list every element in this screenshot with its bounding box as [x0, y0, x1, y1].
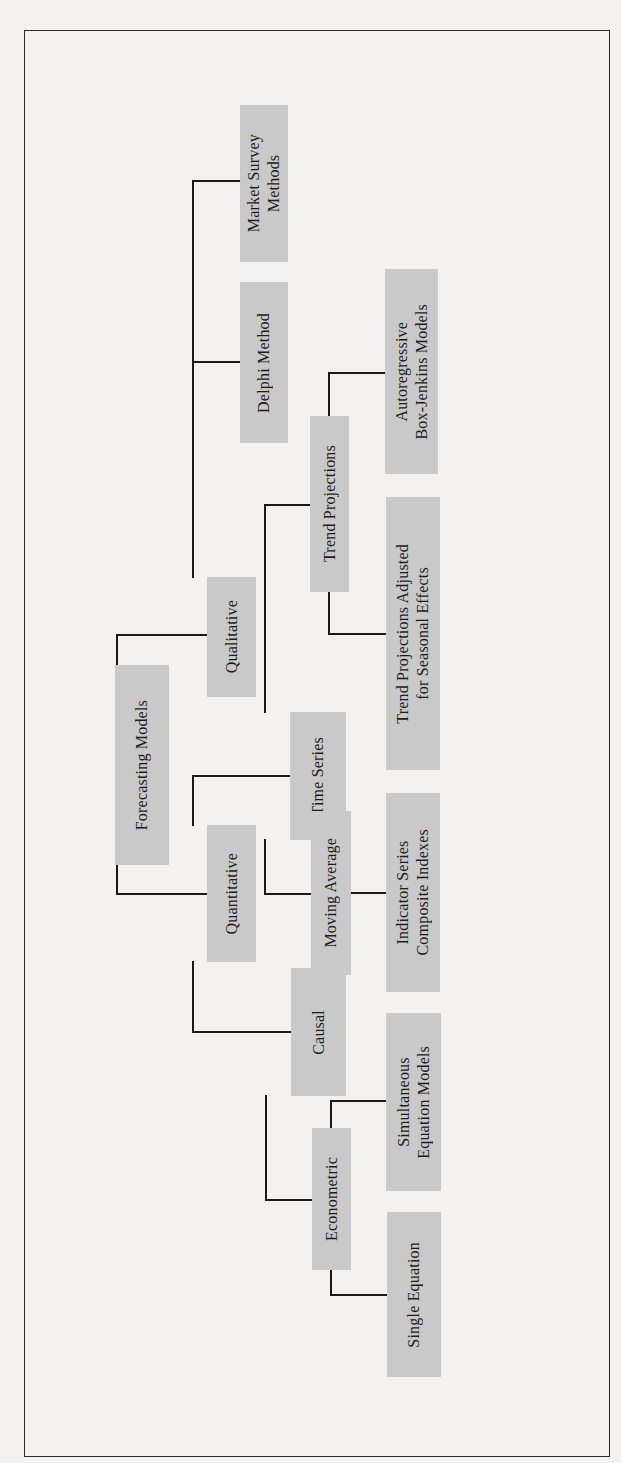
node-econometric: Econometric: [312, 1128, 351, 1270]
connector: [264, 504, 266, 713]
connector: [265, 1199, 313, 1201]
node-single-equation: Single Equation: [387, 1212, 441, 1377]
node-label: Autoregressive Box-Jenkins Models: [392, 304, 432, 440]
connector: [264, 893, 312, 895]
node-label: Indicator Series Composite Indexes: [393, 829, 433, 956]
connector: [330, 1269, 332, 1296]
node-label: Single Equation: [404, 1242, 424, 1348]
node-simultaneous-equation-models: Simultaneous Equation Models: [386, 1013, 441, 1191]
node-indicator-series: Indicator Series Composite Indexes: [386, 793, 440, 992]
node-label: Delphi Method: [254, 313, 274, 413]
connector: [116, 893, 208, 895]
node-label: Causal: [309, 1010, 329, 1055]
connector: [328, 372, 330, 417]
node-qualitative: Qualitative: [207, 577, 256, 697]
node-moving-average: Moving Average: [311, 811, 351, 975]
connector: [116, 864, 118, 895]
connector: [116, 634, 208, 636]
node-label: Trend Projections Adjusted for Seasonal …: [393, 544, 433, 724]
connector: [264, 839, 266, 895]
connector: [328, 372, 386, 374]
node-trend-projections-adjusted: Trend Projections Adjusted for Seasonal …: [386, 497, 440, 770]
node-label: Time Series: [308, 737, 328, 816]
connector: [330, 1100, 332, 1129]
node-label: Forecasting Models: [132, 700, 152, 830]
connector: [330, 1100, 387, 1102]
connector: [192, 361, 241, 363]
node-label: Moving Average: [321, 838, 341, 948]
node-label: Econometric: [322, 1157, 342, 1241]
node-label: Market Survey Methods: [244, 134, 284, 232]
node-quantitative: Quantitative: [207, 825, 256, 962]
node-forecasting-models: Forecasting Models: [115, 665, 169, 865]
node-label: Quantitative: [222, 853, 242, 935]
connector: [192, 775, 291, 777]
node-delphi-method: Delphi Method: [240, 282, 288, 443]
connector: [330, 1294, 388, 1296]
connector: [192, 775, 194, 826]
connector: [192, 180, 241, 182]
node-trend-projections: Trend Projections: [310, 416, 349, 592]
node-market-survey-methods: Market Survey Methods: [240, 105, 288, 262]
node-label: Trend Projections: [320, 445, 340, 562]
connector: [328, 591, 330, 635]
node-label: Qualitative: [222, 600, 242, 673]
connector: [264, 504, 311, 506]
connector: [116, 635, 118, 666]
connector: [350, 892, 387, 894]
connector: [192, 180, 194, 578]
connector: [265, 1095, 267, 1201]
connector: [192, 1031, 292, 1033]
node-label: Simultaneous Equation Models: [394, 1046, 434, 1159]
node-autoregressive-box-jenkins: Autoregressive Box-Jenkins Models: [385, 269, 438, 474]
connector: [328, 633, 387, 635]
node-causal: Causal: [291, 968, 346, 1096]
connector: [192, 961, 194, 1033]
